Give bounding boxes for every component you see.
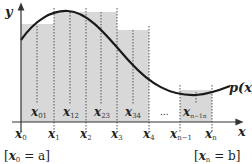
tick-label-0: x0 [14, 127, 27, 142]
tick-label-4: x4 [142, 127, 155, 142]
tick-label-1: x1 [47, 127, 60, 142]
y-axis-arrow-icon [19, 4, 24, 10]
curve-label: p(x) [229, 80, 252, 95]
tick-label-n-1: xn−1 [169, 127, 192, 142]
tick-label-2: x2 [79, 127, 92, 142]
tick-label-n: xn [204, 127, 217, 142]
midpoint-rule-diagram: y x p(x) x01 x12 x23 x34 ... xn−1n x0 x1… [0, 0, 252, 164]
ellipsis: ... [160, 107, 169, 117]
x-axis-label: x [237, 124, 246, 139]
upper-bound-label: [xn = b] [194, 149, 240, 164]
y-axis-label: y [4, 4, 14, 19]
lower-bound-label: [x0 = a] [4, 149, 50, 164]
tick-labels: x0 x1 x2 x3 x4 xn−1 xn [14, 127, 217, 142]
tick-label-3: x3 [110, 127, 123, 142]
